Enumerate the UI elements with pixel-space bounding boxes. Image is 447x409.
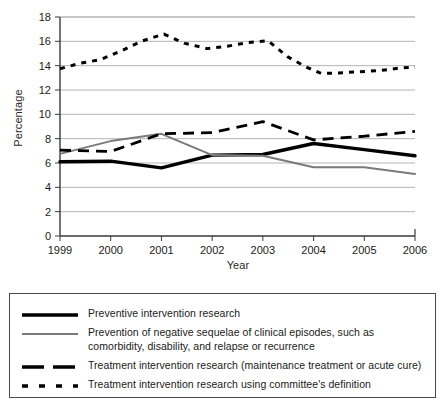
chart-figure: 024681012141618 199920002001200220032004… <box>0 0 447 409</box>
y-tick-group <box>55 17 60 236</box>
legend-entry: Treatment intervention research using co… <box>22 378 430 393</box>
y-tick-label: 6 <box>45 157 51 169</box>
legend-swatch-solid-gray-line <box>22 327 78 341</box>
x-tick-label: 2003 <box>251 244 275 256</box>
legend-entry-list: Preventive intervention researchPreventi… <box>10 294 435 397</box>
legend-entry: Preventive intervention research <box>22 307 430 322</box>
legend-swatch-short-dotted-black-line <box>22 379 78 393</box>
legend-label: Prevention of negative sequelae of clini… <box>88 326 430 353</box>
y-tick-label: 18 <box>39 11 51 23</box>
legend-swatch-long-dashed-black-line <box>22 360 78 374</box>
y-tick-label: 16 <box>39 35 51 47</box>
x-tick-label: 2006 <box>403 244 427 256</box>
series-line-3 <box>60 122 415 152</box>
y-tick-label: 0 <box>45 230 51 242</box>
chart-plot-region: 024681012141618 199920002001200220032004… <box>0 0 447 285</box>
x-tick-label: 2000 <box>98 244 122 256</box>
x-tick-labels-group: 19992000200120022003200420052006 <box>48 244 427 256</box>
y-tick-label: 10 <box>39 108 51 120</box>
y-tick-labels-group: 024681012141618 <box>39 11 51 242</box>
series-line-4 <box>60 34 415 74</box>
legend-entry: Treatment intervention research (mainten… <box>22 359 430 374</box>
y-tick-label: 14 <box>39 60 51 72</box>
y-axis-title: Percentage <box>12 73 24 163</box>
x-tick-label: 2002 <box>200 244 224 256</box>
y-tick-label: 12 <box>39 84 51 96</box>
gridlines-group <box>60 17 415 212</box>
legend-entry: Prevention of negative sequelae of clini… <box>22 326 430 353</box>
legend-label: Treatment intervention research (mainten… <box>88 359 421 373</box>
data-series-group <box>60 34 415 174</box>
x-tick-label: 2004 <box>301 244 325 256</box>
x-tick-group <box>60 236 415 241</box>
x-tick-label: 1999 <box>48 244 72 256</box>
chart-legend: Preventive intervention researchPreventi… <box>9 293 436 398</box>
x-tick-label: 2001 <box>149 244 173 256</box>
line-chart-svg: 024681012141618 199920002001200220032004… <box>0 0 447 285</box>
x-tick-label: 2005 <box>352 244 376 256</box>
y-tick-label: 4 <box>45 181 51 193</box>
legend-label: Treatment intervention research using co… <box>88 378 371 392</box>
x-axis-title: Year <box>60 259 416 271</box>
y-tick-label: 8 <box>45 133 51 145</box>
legend-swatch-solid-thick-black-line <box>22 308 78 322</box>
legend-label: Preventive intervention research <box>88 307 240 321</box>
y-tick-label: 2 <box>45 206 51 218</box>
